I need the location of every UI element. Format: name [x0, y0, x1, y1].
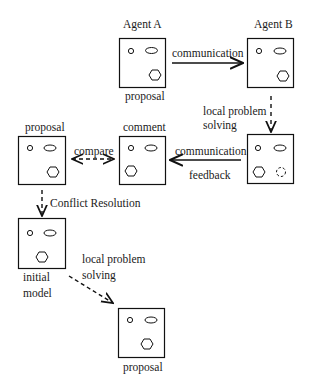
initial-model-caption-2: model [23, 287, 52, 300]
ellipse-icon [274, 145, 286, 151]
diagram-canvas [0, 0, 311, 379]
node-final-proposal [119, 309, 165, 358]
node-proposal-left [19, 137, 66, 185]
ellipse-icon [146, 48, 158, 54]
hexagon-icon [141, 339, 153, 349]
node-agent-a [120, 39, 166, 88]
ellipse-icon [145, 145, 157, 151]
hexagon-icon [149, 70, 161, 80]
edge-label-solving-2: solving [82, 269, 116, 282]
edge-label-feedback: feedback [189, 169, 231, 182]
dashed-circle-icon [277, 168, 286, 177]
hexagon-icon [47, 167, 59, 177]
agent-a-title: Agent A [123, 18, 162, 31]
ellipse-icon [44, 230, 56, 236]
node-agent-b-solved [248, 135, 294, 184]
hexagon-icon [36, 252, 48, 262]
node-agent-b [248, 39, 294, 88]
hexagon-icon [277, 71, 289, 81]
edge-label-local-problem: local problem [203, 105, 267, 118]
small-circle-icon [127, 317, 132, 322]
agent-b-title: Agent B [254, 18, 293, 31]
small-circle-icon [255, 145, 260, 150]
hexagon-icon [125, 166, 137, 176]
ellipse-icon [274, 48, 286, 54]
proposal-left-title: proposal [25, 121, 65, 134]
edge-label-compare: compare [74, 145, 114, 158]
node-initial-model [19, 219, 66, 269]
agent-a-caption: proposal [125, 90, 165, 103]
initial-model-caption-1: initial [23, 271, 50, 284]
small-circle-icon [128, 145, 133, 150]
comment-title: comment [123, 121, 166, 134]
edge-label-solving: solving [203, 119, 237, 132]
final-proposal-caption: proposal [123, 361, 163, 374]
small-circle-icon [27, 145, 32, 150]
edge-label-communication: communication [172, 47, 244, 60]
hexagon-icon [253, 167, 265, 177]
ellipse-icon [44, 145, 56, 151]
edge-label-conflict-resolution: Conflict Resolution [50, 197, 140, 210]
ellipse-icon [145, 317, 157, 323]
small-circle-icon [27, 230, 32, 235]
edge-label-communication-2: communication [175, 145, 247, 158]
small-circle-icon [128, 48, 133, 53]
node-comment [120, 137, 166, 185]
small-circle-icon [256, 48, 261, 53]
edge-label-local-problem-2: local problem [82, 253, 146, 266]
